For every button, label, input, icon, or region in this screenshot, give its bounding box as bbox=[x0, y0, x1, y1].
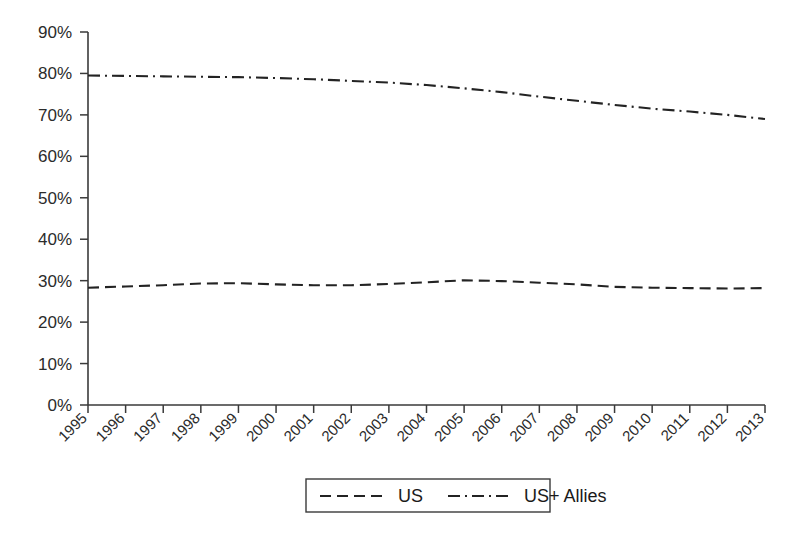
x-tick-label: 2006 bbox=[468, 409, 504, 445]
x-tick-label: 2011 bbox=[657, 409, 692, 444]
y-tick-label: 40% bbox=[38, 230, 72, 249]
y-tick-label: 70% bbox=[38, 106, 72, 125]
x-tick-label: 2003 bbox=[355, 409, 391, 445]
y-tick-label: 0% bbox=[47, 396, 72, 415]
series-layer bbox=[88, 76, 765, 289]
x-tick-label: 2002 bbox=[318, 409, 354, 445]
x-axis-tick-labels: 1995199619971998199920002001200220032004… bbox=[55, 409, 768, 445]
y-tick-label: 80% bbox=[38, 64, 72, 83]
y-tick-label: 50% bbox=[38, 189, 72, 208]
y-tick-label: 10% bbox=[38, 355, 72, 374]
y-axis-tick-labels: 0%10%20%30%40%50%60%70%80%90% bbox=[38, 23, 72, 415]
y-tick-label: 90% bbox=[38, 23, 72, 42]
x-tick-label: 2012 bbox=[694, 409, 730, 445]
legend-label-us-allies: US+ Allies bbox=[524, 486, 607, 506]
line-chart: 0%10%20%30%40%50%60%70%80%90% 1995199619… bbox=[0, 0, 800, 537]
x-tick-label: 1999 bbox=[205, 409, 241, 445]
series-line-us-allies bbox=[88, 76, 765, 120]
chart-canvas: 0%10%20%30%40%50%60%70%80%90% 1995199619… bbox=[0, 0, 800, 537]
x-tick-label: 2001 bbox=[280, 409, 316, 445]
series-line-us bbox=[88, 280, 765, 288]
x-tick-label: 2005 bbox=[431, 409, 467, 445]
x-tick-label: 2007 bbox=[506, 409, 542, 445]
y-axis-tick-marks bbox=[80, 32, 88, 405]
x-tick-label: 1998 bbox=[167, 409, 203, 445]
chart-legend: USUS+ Allies bbox=[306, 479, 607, 512]
y-tick-label: 30% bbox=[38, 272, 72, 291]
x-tick-label: 2009 bbox=[581, 409, 617, 445]
x-tick-label: 2013 bbox=[732, 409, 768, 445]
y-tick-label: 60% bbox=[38, 147, 72, 166]
x-tick-label: 2008 bbox=[543, 409, 579, 445]
legend-label-us: US bbox=[398, 486, 423, 506]
x-tick-label: 2010 bbox=[619, 409, 655, 445]
x-tick-label: 1996 bbox=[92, 409, 128, 445]
x-tick-label: 1997 bbox=[130, 409, 166, 445]
x-tick-label: 2004 bbox=[393, 409, 429, 445]
y-tick-label: 20% bbox=[38, 313, 72, 332]
x-tick-label: 2000 bbox=[243, 409, 279, 445]
